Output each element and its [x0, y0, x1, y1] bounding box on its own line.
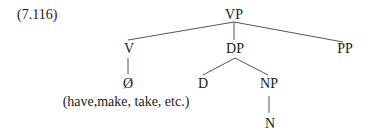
node-null: Ø: [123, 77, 133, 91]
node-d: D: [198, 77, 208, 91]
edge-dp-np: [235, 58, 268, 75]
node-dp: DP: [226, 42, 244, 56]
node-v: V: [124, 42, 134, 56]
annotation-light-verbs: (have,make, take, etc.): [63, 95, 190, 109]
edge-vp-v: [128, 22, 234, 40]
edge-vp-pp: [234, 22, 343, 42]
node-n: N: [265, 117, 275, 131]
example-number: (7.116): [17, 8, 57, 22]
edge-dp-d: [203, 58, 235, 75]
node-np: NP: [260, 77, 278, 91]
node-pp: PP: [337, 42, 353, 56]
node-vp: VP: [225, 8, 243, 22]
